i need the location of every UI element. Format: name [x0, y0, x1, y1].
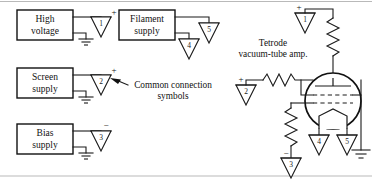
- bias-supply-label-line2: supply: [32, 140, 58, 150]
- plate-supply-terminal-1[interactable]: 1 +: [295, 2, 333, 33]
- annotation-arrow-head-icon: [110, 78, 121, 84]
- common-connection-annotation: Common connection symbols: [110, 78, 212, 101]
- terminal-2-polarity: +: [111, 65, 116, 75]
- terminal-triangle-2-number: 2: [99, 77, 103, 86]
- plate-load-resistor: [327, 18, 339, 78]
- screen-negative-wire: [73, 91, 86, 97]
- terminal-3-polarity: −: [103, 120, 108, 130]
- tetrode-label-line2: vacuum-tube amp.: [238, 49, 307, 59]
- terminal-symbol-1-high-voltage[interactable]: 1 +: [91, 7, 117, 37]
- terminal-triangle-1-number: 1: [99, 19, 103, 28]
- cathode-ground-icon: [352, 150, 370, 158]
- screen-supply-ground-icon: [79, 97, 93, 103]
- amp-terminal-3-polarity: −: [283, 148, 288, 158]
- terminal-symbol-5-filament[interactable]: 5: [199, 23, 219, 43]
- terminal-triangle-4-number: 4: [187, 41, 191, 50]
- terminal-triangle-5-number: 5: [207, 25, 211, 34]
- amp-terminal-4-number: 4: [317, 137, 321, 146]
- high-voltage-label-line1: High: [36, 14, 55, 24]
- high-voltage-negative-wire: [73, 33, 86, 39]
- filament-terminals-group[interactable]: 4 5: [309, 129, 357, 155]
- bias-supply-ground-icon: [79, 153, 93, 159]
- annotation-text-line2: symbols: [158, 91, 189, 101]
- tetrode-amplifier-group[interactable]: Tetrode vacuum-tube amp. 1 +: [236, 2, 370, 178]
- supply-block-screen[interactable]: Screen supply 2 +: [17, 65, 117, 103]
- plate-resistor-zigzag: [327, 18, 339, 56]
- vacuum-tube-envelope[interactable]: [305, 73, 361, 129]
- amp-terminal-1-polarity: +: [296, 2, 301, 12]
- grid-series-resistor-zigzag: [263, 74, 313, 86]
- terminal-triangle-3-number: 3: [99, 133, 103, 142]
- high-voltage-label-line2: voltage: [31, 26, 59, 36]
- amp-terminal-2-polarity: +: [238, 74, 243, 84]
- supply-block-high-voltage[interactable]: High voltage 1 +: [17, 7, 117, 45]
- filament-supply-label-line1: Filament: [130, 14, 164, 24]
- tetrode-label-line1: Tetrode: [259, 38, 287, 48]
- annotation-text-line1: Common connection: [134, 80, 212, 90]
- supply-block-bias[interactable]: Bias supply 3 −: [17, 120, 111, 159]
- amp-terminal-3-number: 3: [289, 160, 293, 169]
- circuit-diagram-figure: High voltage 1 + Filam: [0, 0, 372, 191]
- filament-upper-wire: [175, 17, 209, 23]
- terminal-2-riser-wire: [246, 80, 263, 85]
- terminal-symbol-3-bias[interactable]: 3 −: [91, 120, 111, 151]
- screen-grid-input-branch[interactable]: 2 +: [236, 74, 313, 105]
- terminal-symbol-4-filament[interactable]: 4: [179, 39, 199, 59]
- amp-terminal-1-number: 1: [303, 15, 307, 24]
- terminal-1-polarity: +: [111, 7, 116, 17]
- amp-terminal-5-number: 5: [345, 137, 349, 146]
- filament-supply-label-line2: supply: [134, 26, 160, 36]
- bias-supply-label-line1: Bias: [37, 128, 54, 138]
- grid-bias-resistor-zigzag: [285, 108, 297, 146]
- filament-lower-wire: [175, 33, 189, 39]
- supply-block-filament[interactable]: Filament supply 5 4: [119, 10, 219, 59]
- bias-return-wire: [73, 147, 86, 153]
- high-voltage-ground-icon: [79, 39, 93, 45]
- screen-supply-label-line2: supply: [32, 84, 58, 94]
- screen-supply-label-line1: Screen: [32, 72, 58, 82]
- amp-terminal-2-number: 2: [244, 87, 248, 96]
- schematic-canvas: High voltage 1 + Filam: [0, 0, 372, 191]
